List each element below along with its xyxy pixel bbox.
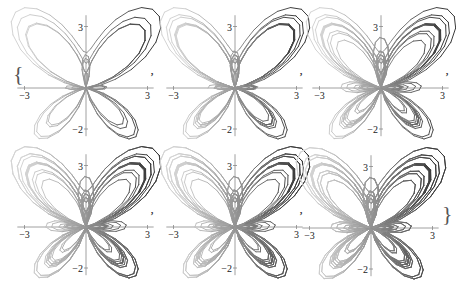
right-brace: } bbox=[442, 201, 453, 226]
x-max-label: 3 bbox=[430, 230, 435, 241]
x-min-label: −3 bbox=[304, 230, 315, 241]
y-max-label: 3 bbox=[363, 162, 368, 173]
butterfly-curve-figure: −333−2,{−333−2,−333−2,−333−2,−333−2,−333… bbox=[0, 0, 456, 289]
y-min-label: −2 bbox=[357, 264, 368, 275]
polar-plot-panel-6: −333−2} bbox=[0, 0, 456, 289]
